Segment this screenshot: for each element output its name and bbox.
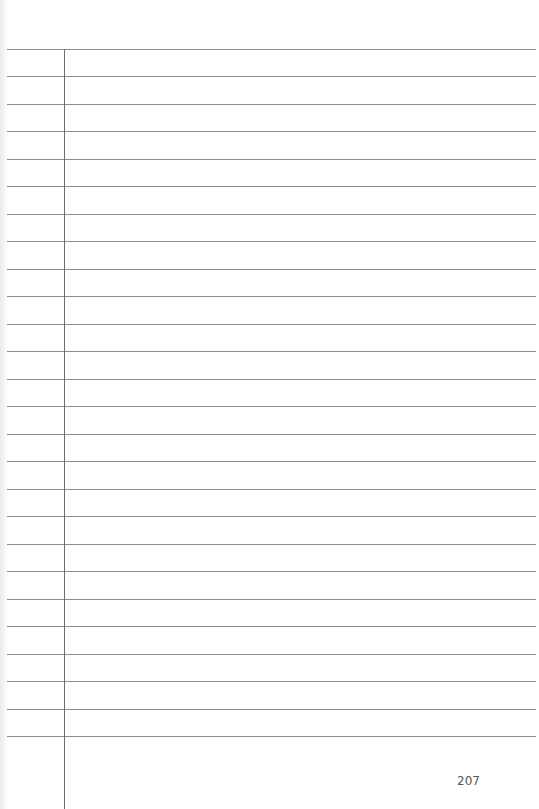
ruled-line [7,241,536,242]
ruled-line [7,379,536,380]
ruled-line [7,736,536,737]
ruled-line [7,296,536,297]
ruled-line [7,461,536,462]
ruled-line [7,709,536,710]
ruled-line [7,214,536,215]
ruled-line [7,351,536,352]
ruled-line [7,406,536,407]
ruled-line [7,324,536,325]
ruled-line [7,131,536,132]
ruled-line [7,76,536,77]
ruled-line [7,159,536,160]
ruled-line [7,626,536,627]
ruled-line [7,544,536,545]
ruled-line [7,516,536,517]
margin-line [64,49,65,809]
ruled-line [7,186,536,187]
ruled-line [7,104,536,105]
ruled-line [7,599,536,600]
page-number: 207 [457,774,480,788]
ruled-line [7,269,536,270]
ruled-line [7,681,536,682]
ruled-line [7,489,536,490]
ruled-line [7,571,536,572]
page-edge-shadow [0,0,8,809]
ruled-line [7,434,536,435]
ruled-line [7,654,536,655]
ruled-line [7,49,536,50]
